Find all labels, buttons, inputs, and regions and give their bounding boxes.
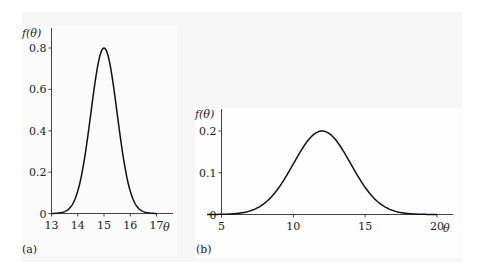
y-tick-label: 0.2: [29, 166, 47, 179]
x-tick-label: 13: [45, 219, 59, 232]
y-axis-label-b: f(θ): [194, 108, 214, 121]
y-tick-label: 0.4: [29, 125, 47, 138]
x-tick-label: 14: [71, 219, 85, 232]
x-axis-label-a: θ: [163, 221, 170, 234]
chart-a: 00.20.40.60.8 1314151617 f(θ) θ (a): [21, 27, 173, 256]
x-tick-label: 15: [358, 220, 372, 233]
y-tick-label: 0.6: [29, 83, 47, 96]
x-tick-label: 15: [97, 219, 111, 232]
x-axis-label-b: θ: [443, 222, 450, 235]
y-axis-label-a: f(θ): [21, 27, 41, 40]
x-tick-label: 10: [286, 220, 300, 233]
y-tick-label: 0.1: [199, 167, 217, 180]
panel-label-b: (b): [196, 243, 212, 256]
density-curve-b: [207, 131, 437, 214]
x-tick-label: 16: [123, 219, 137, 232]
y-tick-label: 0.8: [29, 42, 47, 55]
chart-b: 00.10.2 5101520 f(θ) θ (b): [194, 108, 453, 256]
x-tick-label: 5: [218, 220, 225, 233]
figure: 00.20.40.60.8 1314151617 f(θ) θ (a) 00.1…: [0, 0, 480, 275]
panel-label-a: (a): [22, 243, 37, 256]
x-tick-label: 20: [430, 220, 444, 233]
y-tick-label: 0.2: [199, 125, 217, 138]
x-tick-label: 17: [150, 219, 164, 232]
density-curve-a: [52, 48, 157, 213]
